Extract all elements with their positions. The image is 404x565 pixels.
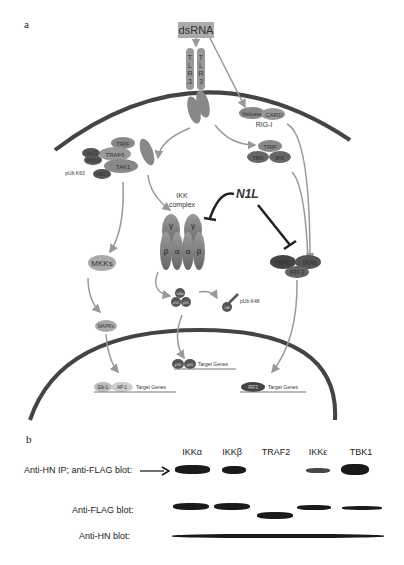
svg-text:R: R <box>187 70 192 77</box>
svg-text:L: L <box>188 62 192 69</box>
svg-text:β: β <box>197 247 202 256</box>
band-flag-ikkb <box>214 503 250 510</box>
svg-text:α: α <box>175 247 180 256</box>
svg-text:T: T <box>199 54 204 61</box>
svg-text:TRIF: TRIF <box>263 144 277 150</box>
svg-text:T: T <box>188 54 193 61</box>
svg-text:IκB: IκB <box>224 306 230 310</box>
svg-text:TRIF: TRIF <box>116 141 130 147</box>
svg-text:p50: p50 <box>175 362 182 367</box>
band-hn-row <box>172 534 384 538</box>
lane-label-tbk1: TBK1 <box>341 447 381 457</box>
svg-text:IKK: IKK <box>275 155 285 161</box>
band-flag-ikke <box>297 505 331 510</box>
svg-text:CARD: CARD <box>265 112 283 118</box>
svg-text:Uev1A: Uev1A <box>86 158 100 163</box>
svg-text:AP-1: AP-1 <box>117 385 128 390</box>
signaling-pathway-diagram: dsRNA T L R 3 T L R 3 Helicase CARD RIG-… <box>0 0 404 430</box>
svg-text:R: R <box>198 70 203 77</box>
band-ip-ikkb <box>222 466 246 474</box>
svg-text:TBK1: TBK1 <box>274 259 292 266</box>
lane-label-ikkb: IKKβ <box>212 447 252 457</box>
panel-b-label: b <box>26 433 32 445</box>
svg-text:pUb K48: pUb K48 <box>240 298 260 304</box>
svg-text:complex: complex <box>169 201 196 209</box>
blot-row-label-ip: Anti-HN IP; anti-FLAG blot: <box>24 465 132 475</box>
svg-text:MAPKs: MAPKs <box>98 323 115 329</box>
blot-row-label-flag: Anti-FLAG blot: <box>72 505 134 515</box>
svg-text:γ: γ <box>169 221 173 230</box>
svg-text:Ubc13: Ubc13 <box>84 151 98 156</box>
n1l-label: N1L <box>236 187 259 201</box>
band-flag-traf2 <box>257 512 293 519</box>
band-ip-ikka <box>175 465 210 474</box>
svg-text:TRAF6: TRAF6 <box>105 152 125 158</box>
lane-label-ikka: IKKα <box>172 447 212 457</box>
svg-text:Target Genes: Target Genes <box>198 361 229 367</box>
svg-text:3: 3 <box>188 78 192 85</box>
svg-text:p65: p65 <box>187 362 194 367</box>
blot-row-label-hn: Anti-HN blot: <box>79 531 130 541</box>
svg-text:3: 3 <box>199 78 203 85</box>
svg-text:L: L <box>199 62 203 69</box>
band-ip-tbk1 <box>341 464 369 475</box>
svg-text:Target Genes: Target Genes <box>136 384 167 390</box>
svg-text:TBK: TBK <box>252 155 264 161</box>
svg-text:IKK: IKK <box>176 192 188 199</box>
svg-text:Target Genes: Target Genes <box>268 384 299 390</box>
svg-text:β: β <box>164 247 169 256</box>
arrow-icon <box>140 465 170 477</box>
svg-text:TAB2/3: TAB2/3 <box>95 172 110 177</box>
svg-text:MKKs: MKKs <box>91 259 112 268</box>
svg-text:Helicase: Helicase <box>242 111 261 117</box>
svg-text:α: α <box>186 247 191 256</box>
dsrna-label: dsRNA <box>179 24 215 36</box>
nuclear-membrane <box>30 330 335 420</box>
svg-text:p65: p65 <box>183 301 189 305</box>
svg-text:IKKε: IKKε <box>303 259 317 266</box>
band-ip-ikke <box>306 468 330 473</box>
svg-text:IRF3: IRF3 <box>289 269 304 276</box>
svg-text:TAK1: TAK1 <box>116 164 131 170</box>
svg-text:IκBα: IκBα <box>176 292 183 296</box>
svg-text:γ: γ <box>191 221 195 230</box>
svg-text:p50: p50 <box>173 301 179 305</box>
lane-label-traf2: TRAF2 <box>256 447 296 457</box>
svg-text:Elk-1: Elk-1 <box>98 385 109 390</box>
band-flag-ikka <box>173 503 209 510</box>
lane-label-ikke: IKKε <box>298 447 338 457</box>
svg-text:pUb K63: pUb K63 <box>65 170 85 176</box>
svg-text:RIG-I: RIG-I <box>256 121 273 128</box>
svg-text:IRF3: IRF3 <box>248 385 258 390</box>
band-flag-tbk1 <box>342 506 382 510</box>
